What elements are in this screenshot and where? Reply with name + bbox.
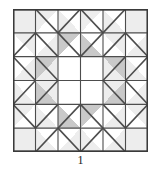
- patch-r6-c6-light: [126, 128, 149, 152]
- patch-r1-c6-light: [126, 9, 149, 33]
- patch-r4-c3-white: [58, 81, 81, 105]
- quilt-block: [13, 9, 148, 152]
- patch-r3-c4-white: [81, 57, 104, 81]
- patch-r4-c4-white: [81, 81, 104, 105]
- patch-r6-c1-light: [13, 128, 36, 152]
- patch-r1-c1-light: [13, 9, 36, 33]
- patch-r3-c3-white: [58, 57, 81, 81]
- quilt-block-svg: [13, 9, 148, 152]
- figure-caption: 1: [0, 153, 161, 167]
- quilt-block-figure: 1: [0, 0, 161, 172]
